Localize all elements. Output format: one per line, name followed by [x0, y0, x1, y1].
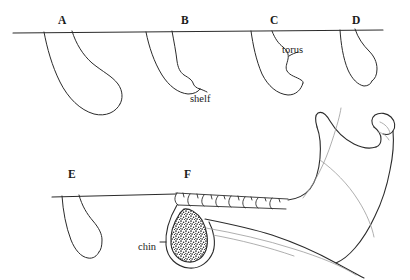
panel-letter-e: E	[68, 168, 76, 180]
mandible-alveolar-margin	[288, 127, 320, 200]
panel-letter-d: D	[352, 14, 361, 26]
anatomical-figure: A B C D E F shelf torus chin	[0, 0, 410, 280]
chin-cross-section-fill	[171, 209, 208, 262]
tooth-row	[175, 193, 288, 209]
panel-letter-c: C	[270, 14, 279, 26]
shelf-label: shelf	[190, 93, 210, 104]
panel-letter-a: A	[58, 14, 67, 26]
mandible-body-outline	[205, 219, 364, 278]
panel-letter-f: F	[184, 168, 191, 180]
specimen-e-outline	[62, 195, 102, 258]
specimen-a-outline	[44, 31, 122, 115]
panel-letter-b: B	[181, 14, 189, 26]
torus-label: torus	[282, 44, 303, 55]
coronoid-process	[316, 112, 376, 148]
figure-drawing-canvas	[0, 0, 410, 280]
chin-label: chin	[138, 241, 156, 252]
shelf-leader-line	[200, 89, 207, 92]
lower-occlusal-line	[52, 194, 176, 197]
mandible-internal-lines	[206, 108, 390, 275]
ramus-posterior-border	[336, 131, 393, 263]
specimen-b-outline	[146, 31, 200, 94]
specimen-d-outline	[340, 29, 377, 86]
specimen-c-outline	[251, 31, 303, 95]
mandibular-notch	[374, 127, 381, 147]
upper-occlusal-line	[13, 30, 383, 33]
